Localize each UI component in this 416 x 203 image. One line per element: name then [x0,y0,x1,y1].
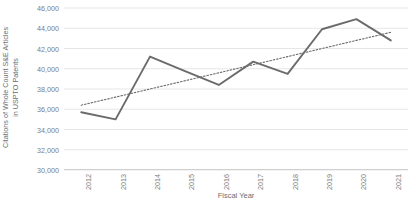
y-tick-label: 36,000 [37,105,59,114]
y-axis-title-line-2: in USPTO Patents [11,27,21,148]
y-tick-label: 34,000 [37,125,59,134]
y-tick-label: 44,000 [37,24,59,33]
x-axis-line [64,169,408,170]
x-tick-label: 2015 [187,174,196,190]
plot-svg [64,8,408,170]
x-tick-label: 2014 [153,174,162,190]
y-axis-title: Citations of Whole Count S&E Articles in… [0,0,22,175]
gridlines [64,8,408,170]
x-tick-label: 2018 [291,174,300,190]
x-tick-label: 2021 [394,174,403,190]
y-tick-label: 46,000 [37,4,59,13]
y-tick-label: 38,000 [37,85,59,94]
x-axis-title: Fiscal Year [64,191,408,200]
x-tick-label: 2012 [84,174,93,190]
y-axis-title-line-1: Citations of Whole Count S&E Articles [2,27,12,148]
y-tick-label: 40,000 [37,64,59,73]
x-tick-label: 2020 [359,174,368,190]
y-tick-label: 32,000 [37,145,59,154]
x-tick-label: 2017 [256,174,265,190]
x-tick-label: 2019 [325,174,334,190]
data-series-line [81,19,391,119]
line-chart: Citations of Whole Count S&E Articles in… [0,0,416,203]
x-axis-tick-labels: 2012201320142015201620172018201920202021 [64,171,408,193]
y-tick-label: 42,000 [37,44,59,53]
y-tick-label: 30,000 [37,166,59,175]
x-tick-label: 2013 [119,174,128,190]
plot-area [64,8,408,170]
y-axis-tick-labels: 30,00032,00034,00036,00038,00040,00042,0… [22,0,62,175]
x-tick-label: 2016 [222,174,231,190]
